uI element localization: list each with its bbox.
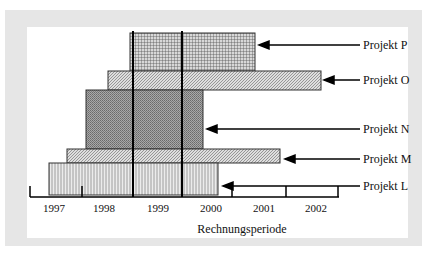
x-tick-label: 1999 <box>147 203 169 214</box>
x-tick-label: 2000 <box>200 203 222 214</box>
label-projekt-n: Projekt N <box>363 123 409 135</box>
label-projekt-o: Projekt O <box>363 74 409 86</box>
label-projekt-m: Projekt M <box>363 153 411 165</box>
label-projekt-l: Projekt L <box>363 180 408 192</box>
x-tick-label: 1998 <box>93 203 115 214</box>
x-axis-title: Rechnungsperiode <box>197 223 286 235</box>
bar-projekt-o <box>108 71 321 90</box>
x-tick-label: 2001 <box>253 203 275 214</box>
x-tick-label: 2002 <box>305 203 327 214</box>
label-projekt-p: Projekt P <box>363 39 407 51</box>
bar-projekt-p <box>130 33 255 71</box>
bar-projekt-m <box>67 149 280 163</box>
x-tick-label: 1997 <box>43 203 65 214</box>
bar-projekt-n <box>86 90 203 149</box>
